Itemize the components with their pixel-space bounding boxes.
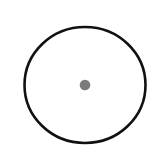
diagram-canvas [0,0,159,156]
center-dot [80,80,91,91]
